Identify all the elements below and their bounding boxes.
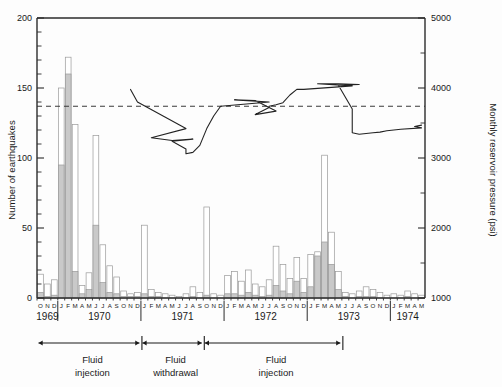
period-annotation: Fluidinjection (39, 336, 142, 378)
right-tick-label: 2000 (431, 223, 451, 233)
month-label: J (60, 302, 63, 309)
month-label: M (156, 302, 161, 309)
bar-shaded (58, 165, 64, 298)
bar-shaded (107, 292, 113, 298)
month-label: J (101, 302, 104, 309)
period-label-line2: injection (259, 367, 294, 378)
bar-column (301, 278, 307, 298)
month-label: J (143, 302, 146, 309)
right-axis-title: Monthly reservoir pressure (psi) (488, 103, 499, 237)
arrow-head (39, 340, 43, 345)
arrow-head (142, 340, 146, 345)
bar-shaded (294, 281, 300, 298)
month-label: S (364, 302, 368, 309)
bar-shaded (72, 271, 78, 298)
bar-column (142, 225, 148, 298)
bar-column (245, 270, 251, 298)
pressure-line-layer (131, 84, 422, 154)
pressure-curve (131, 84, 422, 154)
month-label: J (226, 302, 229, 309)
bar-column (190, 287, 196, 298)
bar-column (322, 155, 328, 298)
month-label: N (45, 302, 49, 309)
bar-shaded (301, 292, 307, 298)
left-tick-label: 200 (17, 13, 32, 23)
year-label: 1969 (36, 311, 59, 322)
bar-column (121, 291, 127, 298)
bar-column (79, 285, 85, 298)
month-label: D (302, 302, 307, 309)
month-label: M (86, 302, 91, 309)
month-label: O (287, 302, 292, 309)
bar-column (148, 290, 154, 298)
left-tick-label: 150 (17, 83, 32, 93)
bar-shaded (86, 290, 92, 298)
month-label: M (322, 302, 327, 309)
bar-column (93, 136, 99, 298)
bar-column (197, 292, 203, 298)
bar-series-layer (38, 57, 425, 298)
month-label: A (413, 302, 418, 309)
bar-column (336, 271, 342, 298)
month-label: F (149, 302, 153, 309)
arrow-head (198, 340, 202, 345)
arrow-head (336, 340, 340, 345)
left-axis-title: Number of earthquakes (6, 120, 17, 220)
bar-column (51, 280, 57, 298)
bar-column (315, 252, 321, 298)
month-label: N (295, 302, 299, 309)
arrow-head (205, 340, 209, 345)
month-label: J (351, 302, 354, 309)
month-label: J (94, 302, 97, 309)
month-label: S (281, 302, 285, 309)
bar-column (294, 257, 300, 298)
month-label: F (66, 302, 70, 309)
period-label-line2: withdrawal (152, 367, 198, 378)
chart-canvas: 05010015020010002000300040005000ONDJFMAM… (0, 0, 502, 387)
bar-column (107, 266, 113, 298)
bar-column (86, 273, 92, 298)
period-label-line2: injection (75, 367, 110, 378)
bar-column (114, 277, 120, 298)
bar-column (232, 271, 238, 298)
left-tick-label: 50 (22, 223, 32, 233)
bar-column (135, 292, 141, 298)
bar-shaded (38, 292, 44, 298)
bar-column (287, 278, 293, 298)
month-label: M (336, 302, 341, 309)
month-label: D (52, 302, 57, 309)
bar-total (377, 292, 383, 298)
year-label: 1973 (338, 311, 361, 322)
bar-shaded (245, 292, 251, 298)
year-label: 1970 (88, 311, 111, 322)
bar-column (65, 57, 71, 298)
bar-column (259, 287, 265, 298)
month-label: N (128, 302, 132, 309)
bar-shaded (93, 225, 99, 298)
year-label: 1971 (171, 311, 194, 322)
right-tick-label: 4000 (431, 83, 451, 93)
year-label: 1974 (397, 311, 420, 322)
bar-shaded (308, 287, 314, 298)
period-label-line1: Fluid (165, 354, 186, 365)
month-label: D (135, 302, 140, 309)
month-label: A (191, 302, 196, 309)
bar-column (225, 276, 231, 298)
bar-column (363, 287, 369, 298)
month-label: S (115, 302, 119, 309)
arrow-head (135, 340, 139, 345)
bar-shaded (315, 256, 321, 298)
month-label: J (392, 302, 395, 309)
month-label: O (371, 302, 376, 309)
bar-column (273, 246, 279, 298)
month-label: A (163, 302, 168, 309)
month-label: M (239, 302, 244, 309)
bar-column (100, 245, 106, 298)
month-label: M (253, 302, 258, 309)
month-label: J (309, 302, 312, 309)
earthquake-pressure-chart: 05010015020010002000300040005000ONDJFMAM… (0, 0, 502, 387)
bar-shaded (100, 283, 106, 298)
bar-shaded (329, 264, 335, 298)
bar-column (280, 264, 286, 298)
month-label: J (184, 302, 187, 309)
